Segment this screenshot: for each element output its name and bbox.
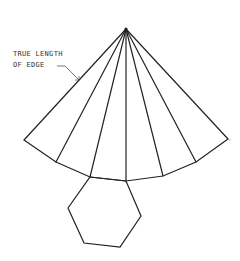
stray-mark: , xyxy=(229,134,231,141)
hexagon-base xyxy=(68,177,141,247)
apex-point xyxy=(124,27,127,30)
pyramid-development-diagram: , xyxy=(0,0,240,261)
true-length-label-line1: TRUE LENGTH xyxy=(13,50,63,59)
true-length-label-line2: OF EDGE xyxy=(13,61,45,70)
leader-arrow xyxy=(57,66,79,80)
